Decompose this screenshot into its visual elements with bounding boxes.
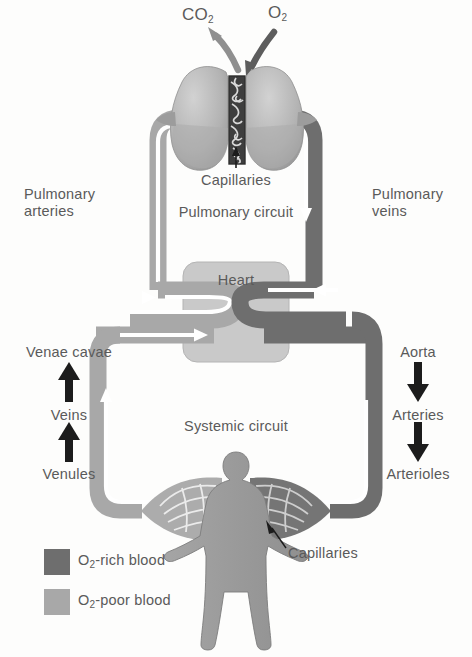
legend-swatch-o2-rich (44, 549, 70, 575)
aorta-label: Aorta (368, 344, 468, 361)
legend-swatch-o2-poor (44, 589, 70, 615)
systemic-circuit-label: Systemic circuit (151, 418, 321, 435)
venae-cavae-label: Venae cavae (8, 344, 130, 361)
pulmonary-capillaries-label: Capillaries (151, 172, 321, 189)
diagram-canvas: CO2 O2 Capillaries Pulmonary circuit Pul… (0, 0, 472, 657)
venules-label: Venules (8, 466, 130, 483)
veins-label: Veins (8, 407, 130, 424)
heart-label: Heart (181, 272, 291, 289)
legend-label-o2-poor: O2-poor blood (78, 592, 248, 613)
co2-arrow-icon (208, 27, 238, 70)
pulmonary-veins-label: Pulmonaryveins (372, 186, 472, 220)
o2-label: O2 (268, 4, 287, 26)
co2-label: CO2 (182, 6, 214, 28)
arteries-label: Arteries (368, 407, 468, 424)
pulmonary-circuit-label: Pulmonary circuit (151, 204, 321, 221)
legend-label-o2-rich: O2-rich blood (78, 552, 248, 573)
pulmonary-arteries-label: Pulmonaryarteries (24, 186, 134, 220)
arterioles-label: Arterioles (364, 466, 472, 483)
systemic-capillaries-label: Capillaries (288, 545, 408, 562)
